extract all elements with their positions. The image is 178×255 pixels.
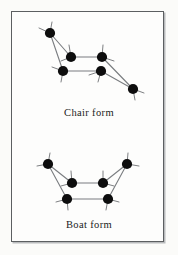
atom-node (62, 194, 72, 204)
ring-bond (102, 57, 133, 89)
molecule-boat (37, 153, 139, 210)
atom-node (103, 194, 113, 204)
atom-node (122, 159, 132, 169)
atom-node (97, 52, 107, 62)
conformation-diagram (0, 0, 178, 255)
atom-node (98, 178, 108, 188)
atom-node (58, 66, 68, 76)
caption-boat-form: Boat form (0, 219, 178, 230)
caption-chair-form: Chair form (0, 107, 178, 118)
atom-node (128, 84, 138, 94)
atom-node (45, 28, 55, 38)
atom-node (96, 66, 106, 76)
ring-bond (48, 164, 67, 199)
atom-node (66, 52, 76, 62)
ring-bond (101, 71, 133, 89)
ring-bond (108, 164, 127, 199)
figure-root: Chair form Boat form (0, 0, 178, 255)
molecule-chair (39, 22, 144, 100)
atom-node (67, 178, 77, 188)
atom-node (43, 159, 53, 169)
ring-bond (50, 33, 63, 71)
